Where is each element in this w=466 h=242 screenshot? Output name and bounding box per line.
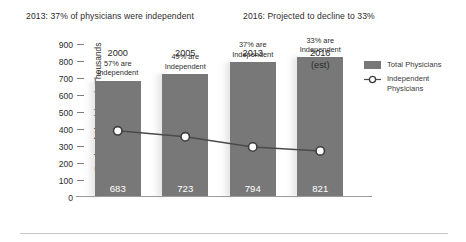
y-tick-label: 500 [59, 108, 73, 117]
y-tick-dash-icon [77, 163, 84, 164]
y-tick-dash-icon [77, 78, 84, 79]
bar-group-2005: 72349% areIndependent [162, 74, 208, 197]
y-tick-dash-icon [77, 61, 84, 62]
y-tick-dash-icon [77, 180, 84, 181]
legend-item-independent-physicians: Independent Physicians [364, 74, 462, 94]
bar-value-label-2016: 821 [297, 183, 343, 194]
legend-label-independent-physicians: Independent Physicians [387, 74, 429, 94]
legend-label-total-physicians: Total Physicians [387, 60, 441, 70]
x-label-year: 2000 [108, 48, 128, 58]
pct-line1: 57% are [104, 59, 132, 68]
legend-circle-marker-icon [364, 75, 381, 84]
legend-item-total-physicians: Total Physicians [364, 60, 462, 70]
chart-page: 2013: 37% of physicians were independent… [0, 0, 466, 242]
x-label-sub: (est) [288, 60, 352, 72]
x-label-year: 2013 [243, 48, 263, 58]
y-tick-label: 800 [59, 57, 73, 66]
y-tick-dash-icon [77, 95, 84, 96]
x-axis-label-2016: 2016(est) [288, 48, 352, 71]
pct-line2: Independent [97, 68, 138, 77]
bar-2013 [230, 62, 276, 197]
bottom-divider [20, 233, 448, 234]
bar-value-label-2013: 794 [230, 183, 276, 194]
bar-2005 [162, 74, 208, 197]
bar-value-label-2005: 723 [162, 183, 208, 194]
x-label-year: 2016 [310, 48, 330, 58]
y-tick-dash-icon [77, 44, 84, 45]
y-tick-dash-icon [77, 146, 84, 147]
y-tick-label: 100 [59, 176, 73, 185]
bar-2000 [95, 81, 141, 197]
y-tick-label: 0 [68, 193, 73, 202]
x-axis-baseline [76, 196, 372, 197]
pct-line1: 33% are [306, 36, 334, 45]
bar-group-2013: 79437% areIndependent [230, 62, 276, 197]
x-axis-label-2013: 2013 [221, 48, 285, 60]
y-tick-label: 900 [59, 40, 73, 49]
x-axis-label-2005: 2005 [153, 48, 217, 60]
bar-group-2000: 68357% areIndependent [95, 81, 141, 197]
headline-left: 2013: 37% of physicians were independent [26, 11, 194, 21]
y-tick-label: 400 [59, 125, 73, 134]
pct-line2: Independent [165, 62, 206, 71]
plot-area: Total # of Physicians in Thousands 90080… [84, 44, 354, 197]
bar-group-2016: 82133% areIndependent [297, 57, 343, 197]
y-tick-dash-icon [77, 129, 84, 130]
y-tick-label: 700 [59, 74, 73, 83]
x-axis-label-2000: 2000 [86, 48, 150, 60]
headline-right: 2016: Projected to decline to 33% [243, 11, 375, 21]
bar-annotation-2000: 57% areIndependent [87, 59, 149, 78]
legend-label-line1: Independent [387, 74, 429, 83]
chart-legend: Total Physicians Independent Physicians [364, 60, 462, 98]
y-tick-label: 300 [59, 142, 73, 151]
y-tick-label: 600 [59, 91, 73, 100]
bar-value-label-2000: 683 [95, 183, 141, 194]
legend-label-line2: Physicians [387, 84, 423, 93]
bar-2016 [297, 57, 343, 197]
y-tick-label: 200 [59, 159, 73, 168]
legend-bar-swatch-icon [364, 61, 381, 69]
y-tick-dash-icon [77, 112, 84, 113]
x-label-year: 2005 [175, 48, 195, 58]
